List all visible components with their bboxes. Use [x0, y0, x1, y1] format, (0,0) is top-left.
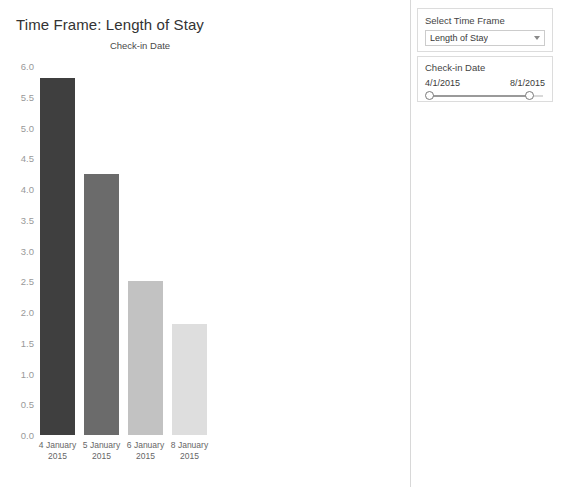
time-frame-selected-value: Length of Stay: [430, 33, 488, 43]
control-panel: Select Time Frame Length of Stay Check-i…: [411, 0, 564, 487]
bar-chart-plot: 6.05.55.04.54.03.53.02.52.01.51.00.50.0 …: [0, 0, 410, 487]
x-axis-tick-label: 6 January2015: [121, 440, 170, 462]
check-in-date-filter-card: Check-in Date 4/1/2015 8/1/2015: [417, 56, 553, 102]
bar[interactable]: [40, 78, 75, 435]
x-axis-tick-label: 8 January2015: [165, 440, 214, 462]
dashboard-left-pane: Time Frame: Length of Stay Check-in Date…: [0, 0, 410, 487]
date-range-max-value: 8/1/2015: [510, 78, 545, 88]
slider-handle-high[interactable]: [525, 91, 534, 100]
bar[interactable]: [128, 281, 163, 435]
slider-handle-low[interactable]: [425, 91, 434, 100]
x-axis-tick-label: 4 January2015: [33, 440, 82, 462]
chevron-down-icon: [534, 36, 540, 40]
x-axis-tick-label: 5 January2015: [77, 440, 126, 462]
bar[interactable]: [84, 174, 119, 435]
check-in-date-label: Check-in Date: [425, 62, 545, 73]
date-range-values: 4/1/2015 8/1/2015: [425, 78, 545, 88]
bars-layer: [0, 0, 410, 487]
time-frame-filter-card: Select Time Frame Length of Stay: [417, 8, 553, 52]
slider-selected-range: [429, 95, 529, 97]
date-range-slider[interactable]: [425, 91, 545, 101]
time-frame-dropdown[interactable]: Length of Stay: [425, 30, 545, 46]
time-frame-label: Select Time Frame: [425, 15, 545, 26]
bar[interactable]: [172, 324, 207, 435]
date-range-min-value: 4/1/2015: [425, 78, 460, 88]
